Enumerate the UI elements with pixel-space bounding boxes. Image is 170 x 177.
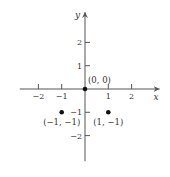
x-tick-label: 1 xyxy=(106,92,111,101)
x-tick-label: −1 xyxy=(56,92,68,101)
x-tick-label: −2 xyxy=(33,92,45,101)
y-tick-label: −2 xyxy=(70,132,82,141)
data-point xyxy=(83,87,88,92)
point-label: (1, −1) xyxy=(93,117,123,127)
y-tick-label: −1 xyxy=(70,108,82,117)
y-tick-label: 2 xyxy=(77,38,82,47)
point-label: (0, 0) xyxy=(88,75,111,85)
point-label: (−1, −1) xyxy=(43,117,80,127)
x-tick-label: 2 xyxy=(129,92,134,101)
y-axis-label: y xyxy=(74,10,81,20)
x-axis-label: x xyxy=(154,92,159,102)
data-point xyxy=(59,110,64,115)
coordinate-plane: x y −2−112−2−112 (0, 0)(−1, −1)(1, −1) xyxy=(0,0,170,177)
y-tick-label: 1 xyxy=(77,62,82,71)
data-point xyxy=(106,110,111,115)
